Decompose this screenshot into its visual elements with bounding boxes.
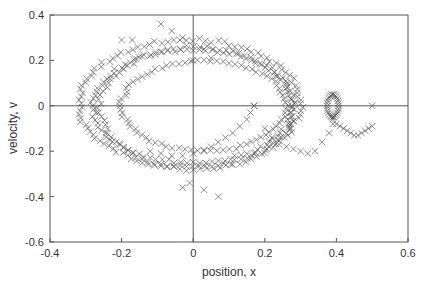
x-marker	[152, 140, 158, 146]
x-marker	[215, 193, 221, 199]
x-tick-label: 0.6	[400, 247, 415, 259]
x-axis-label: position, x	[202, 265, 256, 279]
x-marker	[253, 69, 259, 75]
x-marker	[222, 158, 228, 164]
y-axis-label: velocity, v	[6, 102, 20, 154]
x-marker	[238, 152, 244, 158]
x-marker	[113, 73, 119, 79]
x-marker	[95, 124, 101, 130]
x-marker	[326, 130, 332, 136]
x-marker	[272, 123, 278, 129]
x-marker	[276, 120, 282, 126]
x-marker	[226, 146, 232, 152]
y-tick-label: 0.4	[29, 9, 44, 21]
x-marker	[91, 135, 97, 141]
x-marker	[159, 40, 165, 46]
x-marker	[210, 46, 216, 52]
x-marker	[348, 130, 354, 136]
x-marker	[166, 156, 172, 162]
x-marker	[92, 117, 98, 123]
x-marker	[121, 66, 127, 72]
x-marker	[170, 46, 176, 52]
x-marker	[227, 156, 233, 162]
x-marker	[214, 147, 220, 153]
phase-plot: -0.4-0.200.20.40.60.40.20-0.2-0.4-0.6 po…	[0, 0, 423, 285]
x-marker	[177, 166, 183, 172]
x-marker	[204, 165, 210, 171]
x-marker	[365, 125, 371, 131]
x-marker	[319, 139, 325, 145]
x-marker	[159, 140, 165, 146]
y-tick-label: -0.6	[25, 236, 44, 248]
x-marker	[129, 37, 135, 43]
x-marker	[179, 35, 185, 41]
x-tick-label: 0	[190, 247, 196, 259]
x-marker	[264, 55, 270, 61]
x-marker	[171, 163, 177, 169]
x-tick-label: 0.4	[329, 247, 344, 259]
y-tick-label: -0.2	[25, 145, 44, 157]
x-marker	[255, 49, 261, 55]
x-marker	[337, 123, 343, 129]
x-marker	[118, 37, 124, 43]
x-marker	[120, 144, 126, 150]
x-marker	[102, 121, 108, 127]
x-marker	[182, 60, 188, 66]
x-marker	[201, 187, 207, 193]
x-marker	[76, 97, 82, 103]
x-marker	[351, 132, 357, 138]
x-marker	[333, 121, 339, 127]
x-marker	[119, 113, 125, 119]
x-marker	[194, 147, 200, 153]
x-marker	[145, 161, 151, 167]
x-marker	[169, 61, 175, 67]
x-marker	[244, 116, 250, 122]
x-marker	[237, 142, 243, 148]
x-marker	[151, 38, 157, 44]
x-marker	[104, 84, 110, 90]
x-marker	[215, 37, 221, 43]
x-marker	[355, 132, 361, 138]
x-marker	[216, 47, 222, 53]
x-marker	[184, 160, 190, 166]
data-markers	[76, 21, 376, 200]
x-marker	[300, 104, 306, 110]
x-marker	[158, 150, 164, 156]
x-marker	[179, 153, 185, 159]
x-tick-label: -0.2	[112, 247, 131, 259]
x-marker	[98, 113, 104, 119]
x-marker	[222, 134, 228, 140]
x-marker	[297, 148, 303, 154]
x-marker	[257, 143, 263, 149]
x-marker	[140, 154, 146, 160]
x-marker	[298, 108, 304, 114]
x-marker	[238, 44, 244, 50]
x-marker	[283, 143, 289, 149]
x-marker	[305, 150, 311, 156]
x-marker	[222, 38, 228, 44]
x-marker	[253, 153, 259, 159]
x-marker	[88, 99, 94, 105]
x-marker	[201, 148, 207, 154]
x-marker	[107, 58, 113, 64]
x-marker	[232, 153, 238, 159]
x-marker	[159, 156, 165, 162]
x-marker	[278, 116, 284, 122]
x-marker	[186, 180, 192, 186]
x-marker	[220, 58, 226, 64]
x-marker	[369, 123, 375, 129]
x-tick-label: -0.4	[41, 247, 60, 259]
y-tick-label: 0	[38, 100, 44, 112]
x-marker	[158, 21, 164, 27]
x-marker	[147, 148, 153, 154]
x-marker	[330, 91, 336, 97]
x-marker	[209, 158, 215, 164]
x-marker	[146, 138, 152, 144]
x-marker	[358, 130, 364, 136]
x-marker	[101, 117, 107, 123]
x-marker	[215, 139, 221, 145]
x-marker	[244, 46, 250, 52]
x-marker	[220, 147, 226, 153]
x-marker	[249, 66, 255, 72]
x-marker	[340, 125, 346, 131]
